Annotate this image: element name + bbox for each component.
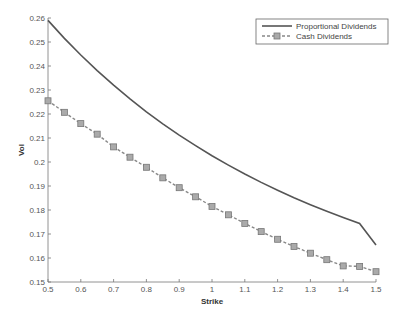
x-axis-label: Strike [201,297,224,306]
square-marker-icon [45,98,51,104]
x-tick-label: 0.9 [174,285,186,294]
square-marker-icon [340,263,346,269]
y-tick-label: 0.25 [29,38,45,47]
y-tick-label: 0.23 [29,86,45,95]
legend-label-cash: Cash Dividends [296,32,352,41]
square-marker-icon [111,144,117,150]
square-marker-icon [275,236,281,242]
y-tick-label: 0.21 [29,134,45,143]
y-tick-label: 0.26 [29,14,45,23]
square-marker-icon [307,250,313,256]
y-axis-label: Vol [17,144,26,156]
x-tick-label: 1.5 [370,285,382,294]
square-marker-icon [373,269,379,275]
x-tick-label: 0.7 [108,285,120,294]
y-tick-label: 0.22 [29,110,45,119]
x-tick-label: 1.2 [272,285,284,294]
square-marker-icon [357,263,363,269]
x-tick-label: 1 [210,285,215,294]
x-tick-label: 1.1 [239,285,251,294]
square-marker-icon [176,185,182,191]
chart: 0.150.160.170.180.190.20.210.220.230.240… [0,0,397,319]
x-tick-label: 0.5 [42,285,54,294]
square-marker-icon [242,220,248,226]
square-marker-icon [160,175,166,181]
square-marker-icon [127,154,133,160]
y-tick-label: 0.19 [29,182,45,191]
square-marker-icon [61,109,67,115]
plot-series [45,20,379,274]
x-tick-label: 1.4 [338,285,350,294]
square-marker-icon [225,212,231,218]
x-tick-label: 0.6 [75,285,87,294]
square-marker-icon [143,164,149,170]
square-marker-icon [78,121,84,127]
y-tick-label: 0.16 [29,254,45,263]
legend-label-proportional: Proportional Dividends [296,22,377,31]
legend: Proportional Dividends Cash Dividends [256,19,388,44]
y-tick-label: 0.18 [29,206,45,215]
x-tick-label: 1.3 [305,285,317,294]
square-marker-icon [94,131,100,137]
x-tick-label: 0.8 [141,285,153,294]
square-marker-icon [324,257,330,263]
y-tick-label: 0.2 [34,158,46,167]
y-tick-label: 0.24 [29,62,45,71]
legend-square-marker-icon [274,33,280,39]
series-cash-dividends [48,101,376,272]
square-marker-icon [258,229,264,235]
square-marker-icon [209,203,215,209]
square-marker-icon [193,194,199,200]
square-marker-icon [291,243,297,249]
y-tick-label: 0.17 [29,230,45,239]
